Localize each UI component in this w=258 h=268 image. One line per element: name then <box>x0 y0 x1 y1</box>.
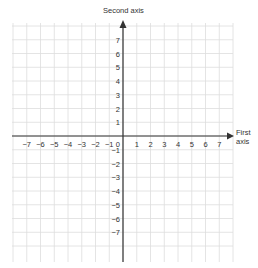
x-tick-label: 6 <box>203 140 207 149</box>
x-tick-label: 5 <box>190 140 194 149</box>
y-tick-label: 3 <box>116 91 120 100</box>
coordinate-plane: −7−6−5−4−3−2−1123456701234567−1−2−3−4−5−… <box>0 0 258 268</box>
y-tick-label: 7 <box>116 36 120 45</box>
x-tick-label: −3 <box>77 140 86 149</box>
x-tick-label: 4 <box>176 140 180 149</box>
x-tick-label: 2 <box>148 140 152 149</box>
x-tick-label: −5 <box>50 140 59 149</box>
y-tick-label: −7 <box>111 228 120 237</box>
x-tick-label: 1 <box>135 140 139 149</box>
y-tick-label: 1 <box>116 118 120 127</box>
y-tick-label: 4 <box>116 77 120 86</box>
x-tick-label: −4 <box>64 140 73 149</box>
y-tick-label: −6 <box>111 215 120 224</box>
y-tick-label: −5 <box>111 201 120 210</box>
y-tick-label: 2 <box>116 105 120 114</box>
y-tick-label: −1 <box>111 146 120 155</box>
x-tick-label: 3 <box>162 140 166 149</box>
y-axis-arrow-icon <box>120 20 127 28</box>
y-tick-label: −4 <box>111 187 120 196</box>
x-tick-label: −6 <box>36 140 45 149</box>
y-tick-label: −2 <box>111 160 120 169</box>
x-tick-label: −7 <box>22 140 31 149</box>
y-tick-label: 6 <box>116 50 120 59</box>
x-tick-label: 7 <box>217 140 221 149</box>
x-tick-label: −2 <box>91 140 100 149</box>
y-tick-label: 5 <box>116 63 120 72</box>
y-tick-label: −3 <box>111 173 120 182</box>
